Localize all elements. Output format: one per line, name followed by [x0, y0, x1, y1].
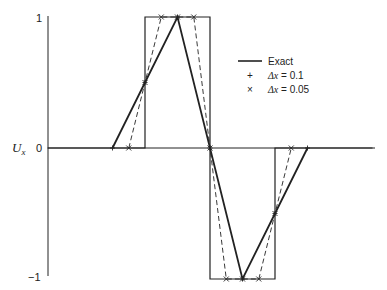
legend-dx005-label: Δx = 0.05 — [267, 84, 310, 95]
legend-exact-label: Exact — [268, 56, 293, 67]
legend-cross-marker: × — [247, 84, 253, 95]
legend-dx005-var: Δx — [267, 84, 279, 95]
chart-svg: 1 0 −1 Ux Exact + Δx = 0.1 × Δx = 0.05 — [0, 0, 387, 290]
legend-dx01-val: = 0.1 — [278, 70, 304, 81]
y-tick-1: 1 — [36, 12, 42, 24]
legend-dx01-var: Δx — [267, 70, 279, 81]
y-tick-0: 0 — [36, 142, 42, 154]
y-label-sub: x — [20, 147, 25, 157]
y-axis-label: Ux — [12, 140, 25, 157]
plot-area — [48, 15, 373, 282]
legend-plus-marker: + — [247, 70, 253, 81]
legend: Exact + Δx = 0.1 × Δx = 0.05 — [238, 56, 310, 95]
y-tick-neg1: −1 — [28, 271, 41, 283]
legend-dx01-label: Δx = 0.1 — [267, 70, 304, 81]
legend-dx005-val: = 0.05 — [278, 84, 309, 95]
